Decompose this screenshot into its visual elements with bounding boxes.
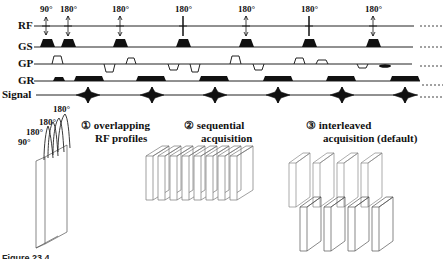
- gr-gradient-lobes: [53, 76, 420, 81]
- panel-title-line1: interleaved: [319, 119, 372, 131]
- panel-title-line1: overlapping: [94, 119, 150, 131]
- panel-title-line2: acquisition (default): [306, 132, 417, 144]
- gs-gradient-lobes: [40, 39, 381, 47]
- panel-title-line2: acquisition: [184, 132, 252, 144]
- gp-small-lobe: [379, 64, 391, 68]
- panel-1-caption: ① overlapping RF profiles: [81, 119, 150, 145]
- panel-number: ②: [184, 119, 194, 131]
- sequential-acquisition-illustration: [146, 146, 253, 200]
- panel-number: ①: [81, 119, 91, 131]
- timing-axes: [34, 26, 420, 95]
- panel-number: ③: [306, 119, 316, 131]
- profile-label-180: 180°: [53, 104, 70, 114]
- profile-label-180: 180°: [39, 117, 56, 127]
- panel-3-caption: ③ interleaved acquisition (default): [306, 119, 417, 145]
- panel-2-caption: ② sequential acquisition: [184, 119, 252, 145]
- panel-title-line1: sequential: [197, 119, 245, 131]
- profile-label-180: 180°: [26, 127, 43, 137]
- continuation-dots: [420, 26, 443, 97]
- profile-label-90: 90°: [18, 137, 31, 147]
- panel-title-line2: RF profiles: [81, 132, 147, 144]
